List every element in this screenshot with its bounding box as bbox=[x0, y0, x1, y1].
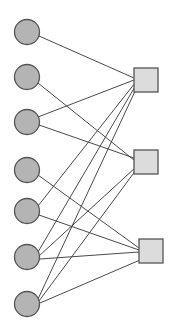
graph-edge-c3-s2 bbox=[39, 125, 134, 158]
graph-edge-c7-s3 bbox=[40, 260, 140, 303]
graph-edge-c6-s1 bbox=[38, 85, 136, 252]
square-node-s2[interactable] bbox=[134, 150, 158, 174]
circle-node-c6[interactable] bbox=[15, 245, 40, 270]
bipartite-graph-diagram bbox=[0, 0, 173, 333]
circle-node-c2[interactable] bbox=[15, 65, 40, 90]
circle-node-c5[interactable] bbox=[15, 199, 40, 224]
circle-node-c3[interactable] bbox=[15, 110, 40, 135]
graph-edge-c1-s1 bbox=[39, 36, 134, 78]
graph-edge-c6-s3 bbox=[40, 252, 139, 259]
graph-edge-c2-s2 bbox=[38, 83, 134, 160]
graph-edge-c5-s3 bbox=[39, 215, 139, 250]
graph-edge-c3-s1 bbox=[38, 80, 134, 117]
right-node-layer bbox=[134, 68, 163, 263]
edge-layer bbox=[38, 36, 140, 303]
graph-canvas bbox=[0, 0, 173, 333]
square-node-s1[interactable] bbox=[134, 68, 158, 92]
square-node-s3[interactable] bbox=[139, 239, 163, 263]
graph-edge-c5-s1 bbox=[38, 83, 135, 206]
circle-node-c7[interactable] bbox=[15, 292, 40, 317]
left-node-layer bbox=[15, 20, 40, 317]
graph-edge-c6-s2 bbox=[39, 168, 135, 256]
circle-node-c1[interactable] bbox=[15, 20, 40, 45]
circle-node-c4[interactable] bbox=[15, 158, 40, 183]
